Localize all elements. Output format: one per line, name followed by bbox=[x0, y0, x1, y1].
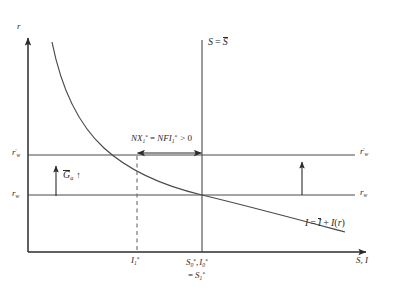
world-rate-initial-label-left: rw bbox=[12, 189, 19, 199]
investment-curve-label: I=I+I(r) bbox=[305, 218, 345, 228]
investment-label-eq: = bbox=[310, 217, 316, 228]
net-exports-annotation: NX1*=NFI1*> 0 bbox=[131, 134, 192, 144]
net-exports-eq: = bbox=[150, 133, 155, 143]
x-tick-line-1: S0*,I0* bbox=[186, 256, 208, 269]
world-rate-initial-sub-right: w bbox=[364, 192, 368, 198]
government-spending-annotation: Ga↑ bbox=[63, 170, 81, 181]
investment-label-I: I bbox=[305, 217, 308, 228]
world-rate-new-sub-left: w bbox=[17, 152, 21, 158]
government-spending-arrow-right-glyph: ↑ bbox=[76, 170, 81, 180]
saving-curve-label: S=S bbox=[208, 37, 228, 47]
x-tick-investment-1: I1* bbox=[131, 256, 140, 266]
investment-label-Ibar: I bbox=[318, 218, 321, 228]
world-rate-new-label-right: r'w bbox=[360, 147, 368, 157]
x-tick-investment-1-sup: * bbox=[137, 256, 140, 262]
net-exports-nx: NX bbox=[131, 133, 143, 143]
net-exports-compare: > 0 bbox=[180, 133, 192, 143]
investment-label-close-paren: ) bbox=[342, 217, 345, 228]
x-axis-label: S, I bbox=[356, 256, 368, 265]
net-exports-nfi-sup: * bbox=[174, 134, 177, 140]
saving-curve-label-S: S bbox=[208, 36, 213, 47]
x-tick-eq: = bbox=[188, 270, 193, 280]
net-exports-nx-sup: * bbox=[145, 134, 148, 140]
government-spending-sub: a bbox=[70, 174, 73, 181]
y-axis-label: r bbox=[17, 22, 21, 31]
diagram-canvas bbox=[0, 0, 393, 299]
saving-curve-label-Sbar: S bbox=[223, 37, 228, 47]
x-tick-line-2: =S1* bbox=[188, 269, 208, 282]
saving-curve-label-eq: = bbox=[215, 36, 221, 47]
x-tick-saving-investment-0: S0*,I0* =S1* bbox=[186, 256, 208, 282]
world-rate-initial-sub-left: w bbox=[16, 193, 20, 199]
government-spending-symbol: G bbox=[63, 170, 70, 180]
x-tick-S1-sup: * bbox=[202, 271, 205, 277]
investment-curve bbox=[52, 42, 345, 232]
x-tick-I0-sup: * bbox=[205, 258, 208, 264]
world-rate-new-label-left: r'w bbox=[12, 148, 20, 158]
figure-container: r S, I S=S NX1*=NFI1*> 0 r'w rw r'w rw G… bbox=[0, 0, 393, 299]
net-exports-nfi: NFI bbox=[157, 133, 172, 143]
world-rate-initial-label-right: rw bbox=[360, 188, 367, 198]
investment-label-plus: + bbox=[323, 217, 329, 228]
x-tick-comma: , bbox=[196, 257, 198, 267]
world-rate-new-sub-right: w bbox=[365, 151, 369, 157]
